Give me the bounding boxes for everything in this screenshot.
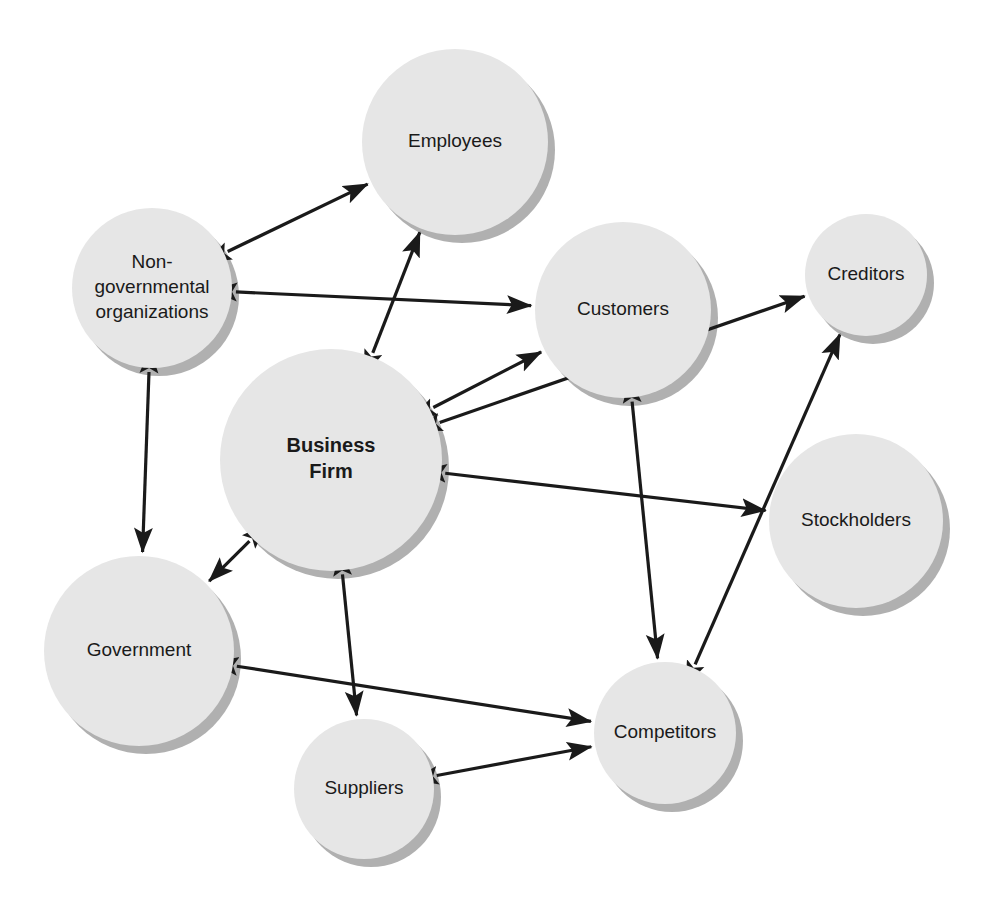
node-label-line: Stockholders bbox=[801, 509, 911, 530]
connector-firm-suppliers[interactable] bbox=[342, 574, 356, 715]
node-business-firm[interactable]: BusinessFirm bbox=[220, 349, 442, 571]
connector-firm-stockholders[interactable] bbox=[445, 473, 765, 510]
node-label-line: Non- bbox=[131, 251, 172, 272]
connector-suppliers-competitors[interactable] bbox=[437, 747, 592, 776]
node-label-line: Customers bbox=[577, 298, 669, 319]
connector-firm-customers[interactable] bbox=[433, 352, 541, 407]
node-label-line: Firm bbox=[309, 460, 352, 482]
connector-customers-competitors[interactable] bbox=[632, 402, 657, 659]
node-label-line: Creditors bbox=[827, 263, 904, 284]
connector-ngo-government[interactable] bbox=[143, 372, 149, 552]
node-stockholders[interactable]: Stockholders bbox=[769, 434, 943, 608]
connector-ngo-employees[interactable] bbox=[228, 184, 368, 251]
node-label-government: Government bbox=[87, 639, 192, 660]
connector-ngo-customers[interactable] bbox=[236, 292, 531, 306]
node-employees[interactable]: Employees bbox=[362, 49, 548, 235]
node-suppliers[interactable]: Suppliers bbox=[294, 719, 434, 859]
connector-government-competitors[interactable] bbox=[237, 666, 591, 721]
node-label-stockholders: Stockholders bbox=[801, 509, 911, 530]
stakeholder-diagram: EmployeesNon-governmentalorganizationsCu… bbox=[0, 0, 994, 909]
node-label-customers: Customers bbox=[577, 298, 669, 319]
node-label-line: organizations bbox=[95, 301, 208, 322]
node-label-suppliers: Suppliers bbox=[324, 777, 403, 798]
node-label-employees: Employees bbox=[408, 130, 502, 151]
diagram-canvas: EmployeesNon-governmentalorganizationsCu… bbox=[0, 0, 994, 909]
node-label-line: Competitors bbox=[614, 721, 716, 742]
node-label-line: Government bbox=[87, 639, 192, 660]
node-government[interactable]: Government bbox=[44, 556, 234, 746]
node-competitors[interactable]: Competitors bbox=[594, 662, 736, 804]
node-label-line: Business bbox=[287, 434, 376, 456]
node-customers[interactable]: Customers bbox=[535, 222, 711, 398]
node-ngo[interactable]: Non-governmentalorganizations bbox=[72, 208, 232, 368]
node-label-line: Suppliers bbox=[324, 777, 403, 798]
node-label-competitors: Competitors bbox=[614, 721, 716, 742]
node-label-line: Employees bbox=[408, 130, 502, 151]
node-creditors[interactable]: Creditors bbox=[805, 214, 927, 336]
node-label-line: governmental bbox=[94, 276, 209, 297]
connector-firm-employees[interactable] bbox=[373, 232, 420, 352]
connector-firm-government[interactable] bbox=[209, 541, 249, 581]
node-label-creditors: Creditors bbox=[827, 263, 904, 284]
